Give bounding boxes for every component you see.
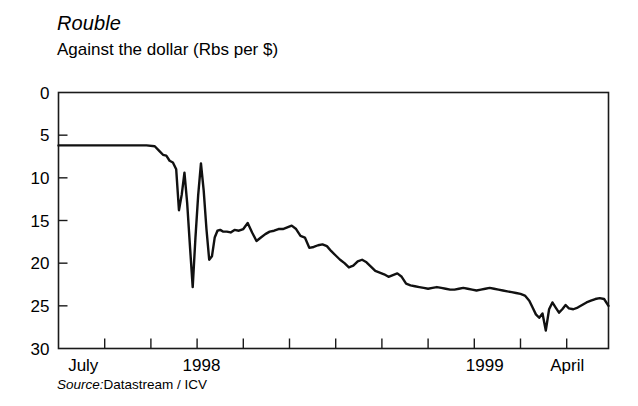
x-tick-label: April — [550, 356, 584, 375]
y-tick-label: 5 — [40, 126, 49, 145]
y-tick-label: 30 — [31, 340, 50, 359]
plot-border — [59, 93, 609, 349]
y-tick-label: 20 — [31, 254, 50, 273]
source-note: Source:Datastream / ICV — [57, 377, 207, 392]
source-value: Datastream / ICV — [104, 377, 208, 392]
rouble-exchange-rate-figure: Rouble Against the dollar (Rbs per $) 05… — [0, 0, 638, 406]
y-tick-label: 0 — [40, 84, 49, 103]
plot-area: 051015202530 July19981999April — [0, 0, 638, 406]
x-tick-label: July — [68, 356, 99, 375]
y-axis-tick-labels: 051015202530 — [31, 84, 50, 359]
axis-frame — [59, 93, 609, 349]
source-label: Source: — [57, 377, 104, 392]
data-series-group — [59, 145, 609, 330]
y-tick-label: 15 — [31, 212, 50, 231]
x-tick-label: 1999 — [466, 356, 504, 375]
line-chart-svg: 051015202530 July19981999April — [0, 0, 638, 406]
series-line — [59, 145, 609, 330]
y-tick-label: 25 — [31, 297, 50, 316]
x-axis-tick-labels: July19981999April — [68, 356, 584, 375]
y-axis-ticks — [59, 135, 68, 306]
x-axis-ticks — [105, 339, 567, 349]
y-tick-label: 10 — [31, 169, 50, 188]
x-tick-label: 1998 — [183, 356, 221, 375]
